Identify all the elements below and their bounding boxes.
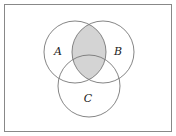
venn-diagram: A B C: [0, 0, 176, 136]
label-c: C: [84, 92, 93, 105]
label-b: B: [113, 45, 122, 58]
label-a: A: [53, 45, 62, 58]
